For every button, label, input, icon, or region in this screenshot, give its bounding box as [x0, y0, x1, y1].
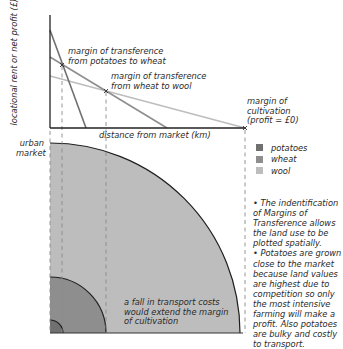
potatoes-line [50, 30, 86, 128]
y-axis-label: locational rent or net profit (£) [9, 11, 19, 126]
wheat-swatch [256, 156, 263, 163]
note-potatoes: • Potatoes are grown close to the market… [253, 248, 343, 349]
transport-cost-note: a fall in transport costs would extend t… [124, 298, 229, 327]
legend-item-potatoes: potatoes [256, 142, 307, 154]
legend-item-wheat: wheat [256, 154, 307, 166]
legend: potatoes wheat wool [256, 142, 307, 177]
note-margins-of-transference: • The indentification of Margins of Tran… [253, 198, 343, 248]
explanatory-notes: • The indentification of Margins of Tran… [253, 198, 343, 349]
wool-swatch [256, 167, 263, 174]
urban-market-label: urban market [16, 139, 44, 158]
legend-item-wool: wool [256, 165, 307, 177]
annotation-margin-of-cultivation: margin of cultivation (profit = £0) [247, 97, 299, 126]
annotation-wheat-to-wool: margin of transference from wheat to woo… [111, 72, 206, 91]
potatoes-swatch [256, 144, 263, 151]
annotation-potatoes-to-wheat: margin of transference from potatoes to … [68, 47, 166, 66]
x-axis-label: distance from market (km) [99, 131, 211, 141]
wheat-line [50, 57, 167, 128]
